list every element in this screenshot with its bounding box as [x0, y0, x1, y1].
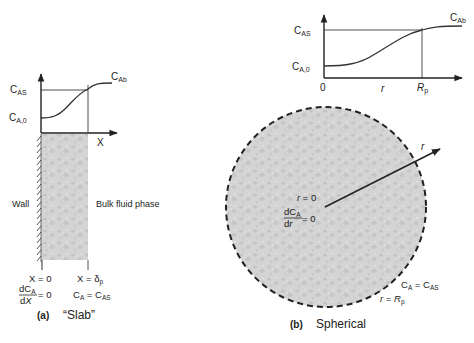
sphere-surface-concentration: CA = CAS [401, 279, 439, 291]
slab-x0-label: X = 0 [29, 273, 51, 284]
slab-left-condition-denominator: dX [20, 295, 32, 306]
svg-text:Spherical: Spherical [316, 317, 366, 331]
sphere-center-condition-denominator: dr [284, 218, 293, 229]
sphere-r0-label: r = 0 [297, 192, 316, 203]
wall-label: Wall [12, 199, 29, 209]
sphere-rp-tick-label: Rp [417, 82, 428, 95]
svg-text:“Slab”: “Slab” [63, 308, 95, 322]
sphere-caption: (b) Spherical [290, 317, 366, 331]
slab-ca0-label: CA,0 [9, 112, 27, 124]
slab-xdelta-label: X = δp [77, 273, 103, 286]
slab-body [37, 134, 88, 270]
slab-porous-region [41, 134, 88, 260]
wall-hatching [37, 134, 41, 262]
svg-text:(b): (b) [290, 319, 303, 330]
sphere-cas-label: CAS [294, 25, 311, 37]
slab-cab-label: CAb [111, 71, 127, 83]
radius-arrow-label: r [421, 141, 425, 152]
sphere-cab-label: CAb [450, 12, 466, 24]
slab-cas-label: CAS [10, 84, 27, 96]
sphere-concentration-curve [324, 26, 462, 66]
slab-right-boundary: X = δp CA = CAS [73, 273, 111, 301]
diagram-canvas: CAS CA,0 CAb X Wall Bulk fluid phase X =… [0, 0, 474, 343]
sphere-surface-position: r = Rp [380, 293, 405, 306]
slab-concentration-curve [41, 83, 112, 118]
sphere-x-axis-label: r [381, 83, 385, 94]
slab-x-axis-label: X [97, 137, 104, 148]
sphere-center-condition-rhs: = 0 [302, 213, 315, 224]
svg-text:(a): (a) [37, 310, 49, 321]
slab-caption: (a) “Slab” [37, 308, 95, 322]
slab-right-condition: CA = CAS [73, 289, 111, 301]
sphere-body [226, 107, 440, 307]
bulk-fluid-label: Bulk fluid phase [96, 199, 160, 209]
sphere-ca0-label: CA,0 [292, 61, 310, 73]
slab-left-boundary: X = 0 dCA dX = 0 [19, 273, 51, 306]
sphere-concentration-chart: CAS CA,0 CAb 0 r Rp [292, 12, 466, 95]
slab-left-condition-numerator: dCA [19, 283, 36, 295]
slab-left-condition-rhs: = 0 [38, 289, 51, 300]
sphere-origin-label: 0 [320, 82, 326, 93]
